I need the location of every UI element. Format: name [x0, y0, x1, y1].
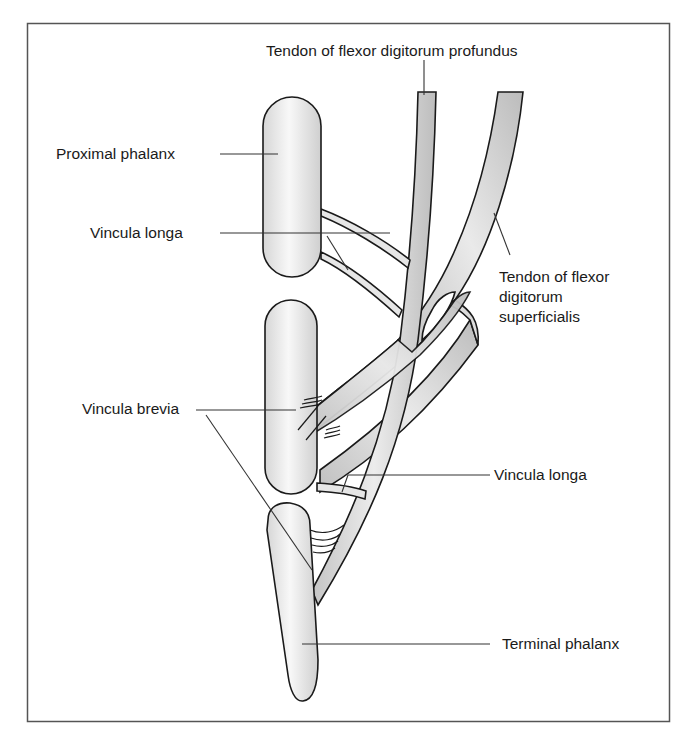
figure-frame — [28, 24, 670, 722]
label-vincula-longa-upper: Vincula longa — [90, 224, 183, 241]
label-fds-tendon-line3: superficialis — [499, 308, 580, 325]
vincula-diagram: Tendon of flexor digitorum profundus Pro… — [0, 0, 691, 739]
label-terminal-phalanx: Terminal phalanx — [502, 635, 619, 652]
label-fds-tendon-line1: Tendon of flexor — [499, 268, 609, 285]
label-fdp-tendon: Tendon of flexor digitorum profundus — [266, 42, 518, 59]
proximal-phalanx-bone — [263, 97, 321, 277]
middle-phalanx-bone — [265, 300, 317, 494]
label-vincula-brevia: Vincula brevia — [82, 400, 179, 417]
label-vincula-longa-lower: Vincula longa — [494, 466, 587, 483]
label-fds-tendon-line2: digitorum — [499, 288, 563, 305]
label-proximal-phalanx: Proximal phalanx — [56, 145, 175, 162]
